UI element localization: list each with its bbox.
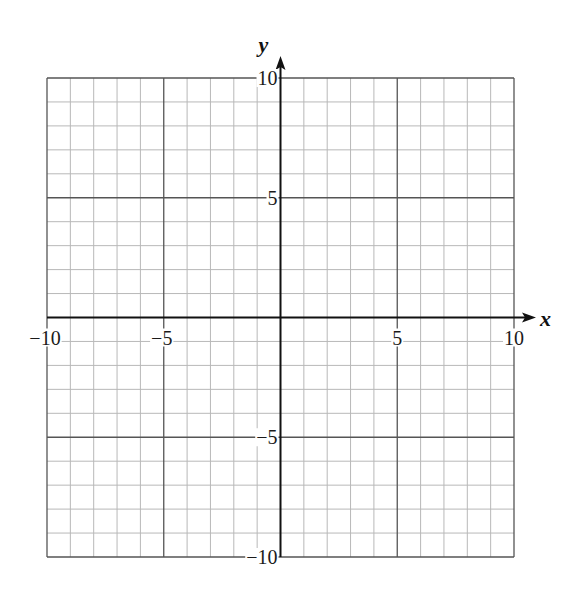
x-tick-label: −10 [29,327,60,349]
y-tick-label: 5 [268,187,278,209]
y-tick-label: −10 [246,546,277,568]
y-tick-label: 10 [258,67,278,89]
x-tick-label: 5 [392,327,402,349]
x-axis-label: x [539,306,551,331]
y-axis-label: y [256,32,269,57]
x-tick-label: 10 [504,327,524,349]
coordinate-grid: −10−5510105−5−10 x y [0,0,588,605]
x-tick-label: −5 [151,327,172,349]
axes [47,56,536,557]
y-tick-label: −5 [256,426,277,448]
